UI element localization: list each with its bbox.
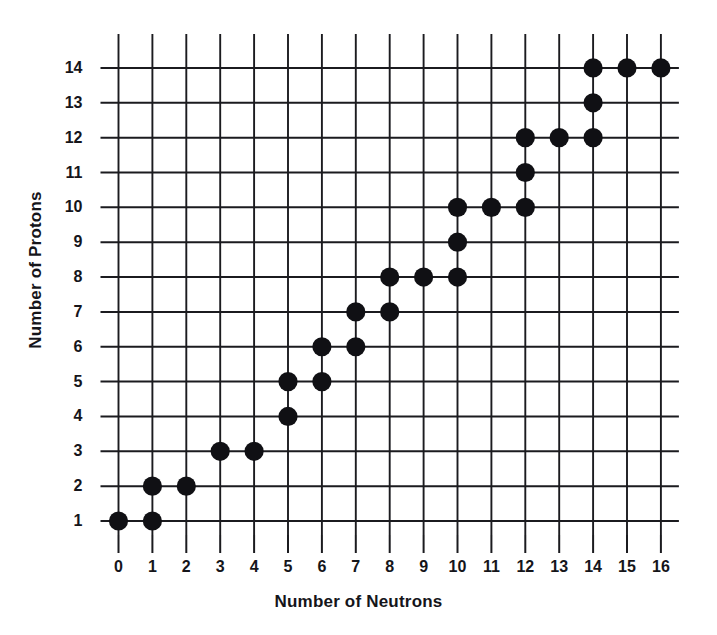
y-axis-tick-label: 5 bbox=[53, 374, 83, 390]
x-axis-tick-label: 7 bbox=[343, 559, 369, 575]
x-axis-tick-label: 0 bbox=[106, 559, 132, 575]
x-axis-tick-label: 14 bbox=[580, 559, 606, 575]
x-axis-tick-label: 16 bbox=[648, 559, 674, 575]
y-axis-tick-label: 14 bbox=[53, 60, 83, 76]
x-axis-tick-label: 6 bbox=[309, 559, 335, 575]
data-point bbox=[617, 58, 636, 77]
data-point bbox=[414, 267, 433, 286]
y-axis-tick-label: 11 bbox=[53, 165, 83, 181]
data-point bbox=[346, 337, 365, 356]
y-axis-tick-label: 13 bbox=[53, 95, 83, 111]
y-axis-tick-label: 9 bbox=[53, 234, 83, 250]
y-axis-tick-label: 10 bbox=[53, 199, 83, 215]
data-point bbox=[143, 511, 162, 530]
data-point bbox=[312, 372, 331, 391]
data-point bbox=[109, 511, 128, 530]
data-point bbox=[448, 233, 467, 252]
data-point bbox=[278, 372, 297, 391]
y-axis-tick-label: 6 bbox=[53, 339, 83, 355]
y-axis-tick-label: 12 bbox=[53, 130, 83, 146]
x-axis-tick-label: 9 bbox=[411, 559, 437, 575]
x-axis-tick-label: 15 bbox=[614, 559, 640, 575]
data-point bbox=[380, 267, 399, 286]
y-axis-tick-label: 7 bbox=[53, 304, 83, 320]
plot-canvas bbox=[0, 0, 717, 635]
data-point bbox=[380, 302, 399, 321]
x-axis-tick-label: 3 bbox=[207, 559, 233, 575]
data-point bbox=[584, 128, 603, 147]
y-axis-tick-label: 4 bbox=[53, 408, 83, 424]
data-point bbox=[651, 58, 670, 77]
x-axis-tick-label: 4 bbox=[241, 559, 267, 575]
scatter-plot-figure: 1234567891011121314 01234567891011121314… bbox=[0, 0, 717, 635]
y-axis-tick-label: 8 bbox=[53, 269, 83, 285]
data-point bbox=[448, 198, 467, 217]
data-point bbox=[278, 407, 297, 426]
data-point bbox=[550, 128, 569, 147]
x-axis-tick-label: 8 bbox=[377, 559, 403, 575]
y-axis-title-wrapper: Number of Protons bbox=[26, 140, 50, 400]
x-axis-tick-label: 11 bbox=[478, 559, 504, 575]
x-axis-tick-label: 10 bbox=[445, 559, 471, 575]
data-point bbox=[448, 267, 467, 286]
y-axis-title: Number of Protons bbox=[26, 140, 46, 400]
x-axis-title: Number of Neutrons bbox=[0, 592, 717, 612]
data-point bbox=[584, 93, 603, 112]
data-point bbox=[516, 163, 535, 182]
data-point bbox=[143, 477, 162, 496]
x-axis-tick-label: 5 bbox=[275, 559, 301, 575]
x-axis-tick-label: 1 bbox=[139, 559, 165, 575]
data-point bbox=[177, 477, 196, 496]
x-axis-tick-label: 12 bbox=[512, 559, 538, 575]
y-axis-tick-label: 3 bbox=[53, 443, 83, 459]
data-point bbox=[482, 198, 501, 217]
data-point bbox=[346, 302, 365, 321]
data-point bbox=[516, 128, 535, 147]
x-axis-tick-label: 2 bbox=[173, 559, 199, 575]
data-point bbox=[245, 442, 264, 461]
data-point bbox=[312, 337, 331, 356]
data-point bbox=[584, 58, 603, 77]
x-axis-tick-label: 13 bbox=[546, 559, 572, 575]
y-axis-tick-label: 2 bbox=[53, 478, 83, 494]
data-point bbox=[516, 198, 535, 217]
data-point bbox=[211, 442, 230, 461]
y-axis-tick-label: 1 bbox=[53, 513, 83, 529]
